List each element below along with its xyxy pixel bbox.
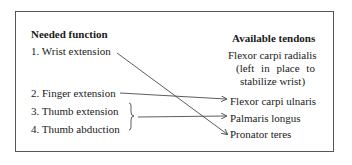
connection-thumb-to-palmaris — [138, 116, 226, 117]
connection-lines — [0, 0, 352, 165]
brace-thumb-functions — [129, 103, 134, 130]
